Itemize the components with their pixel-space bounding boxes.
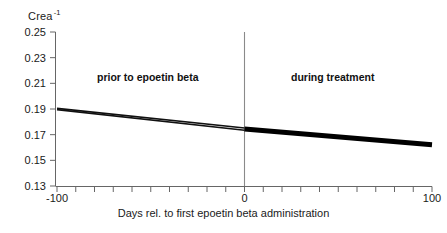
y-axis-label-exponent: -1	[54, 8, 61, 17]
y-tick-label: 0.25	[12, 26, 46, 38]
annotation-during-treatment: during treatment	[291, 71, 374, 83]
x-tick-label: 100	[412, 192, 447, 204]
y-tick-label: 0.15	[12, 154, 46, 166]
x-tick-label: -100	[37, 192, 77, 204]
y-axis-label: Crea-1	[28, 8, 61, 22]
y-tick-label: 0.17	[12, 129, 46, 141]
series-line-upper-prior	[57, 108, 245, 128]
x-tick-label: 0	[225, 192, 265, 204]
y-tick-label: 0.21	[12, 77, 46, 89]
y-tick-label: 0.19	[12, 103, 46, 115]
y-axis-label-text: Crea	[28, 10, 53, 22]
series-line-lower-prior	[57, 110, 245, 131]
y-tick-label: 0.13	[12, 180, 46, 192]
y-tick-marks	[50, 32, 56, 186]
x-axis-label: Days rel. to first epoetin beta administ…	[0, 207, 447, 219]
series-line-during-treatment	[245, 129, 433, 145]
y-tick-label: 0.23	[12, 52, 46, 64]
annotation-prior-to-epoetin-beta: prior to epoetin beta	[97, 71, 199, 83]
chart-figure: Crea-1	[0, 0, 447, 233]
